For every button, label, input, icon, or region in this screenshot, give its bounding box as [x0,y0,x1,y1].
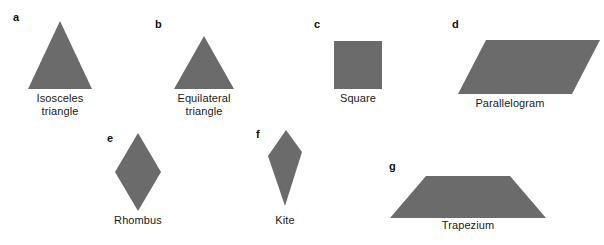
shape-tag-parallelogram: d [452,19,459,30]
shape-caption-kite: Kite [245,214,325,227]
shape-tag-isosceles-triangle: a [13,12,19,23]
shape-tag-equilateral-triangle: b [155,19,162,30]
shape-tag-rhombus: e [107,133,113,144]
shape-caption-isosceles-triangle: Isosceles triangle [20,92,100,117]
shape-caption-trapezium: Trapezium [428,219,508,232]
shape-fill-parallelogram [458,40,600,94]
shape-caption-parallelogram: Parallelogram [450,97,570,110]
shape-tag-kite: f [256,129,260,140]
shape-fill-kite [268,130,302,206]
shape-fill-isosceles-triangle [28,21,92,89]
shape-isosceles-triangle [28,21,92,89]
shape-caption-equilateral-triangle: Equilateral triangle [164,92,244,117]
shape-caption-square: Square [318,92,398,105]
shape-fill-rhombus [115,133,161,211]
polygon-types-figure: aIsosceles trianglebEquilateral triangle… [0,0,604,245]
shape-parallelogram [458,40,600,94]
shape-fill-square [334,41,382,89]
shape-rhombus [115,133,161,211]
shape-equilateral-triangle [174,36,234,89]
shape-tag-square: c [314,19,320,30]
shape-fill-trapezium [390,176,546,218]
shape-caption-rhombus: Rhombus [98,214,178,227]
shape-square [334,41,382,89]
shape-tag-trapezium: g [389,161,396,172]
shape-fill-equilateral-triangle [174,36,234,89]
shape-trapezium [390,176,546,218]
shape-kite [268,130,302,206]
